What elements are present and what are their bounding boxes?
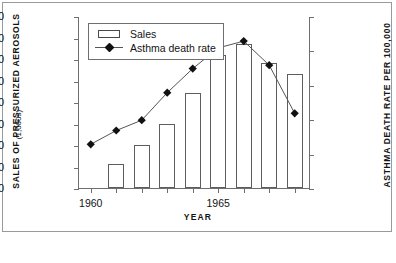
y-axis-left-tick xyxy=(74,103,79,104)
x-axis-tick xyxy=(295,188,296,193)
x-axis-tick xyxy=(167,188,168,193)
legend-item-asthma-death-rate: Asthma death rate xyxy=(94,41,216,55)
y-axis-right-tick xyxy=(309,155,314,156)
y-axis-left-tick-label: 0 xyxy=(0,183,4,194)
data-point-marker xyxy=(112,126,120,134)
y-axis-right-tick xyxy=(309,189,314,190)
y-axis-left-tick xyxy=(74,60,79,61)
y-axis-left-tick xyxy=(74,168,79,169)
x-axis-tick xyxy=(193,188,194,193)
y-axis-right-tick xyxy=(309,86,314,87)
y-axis-left-tick-label: 300 xyxy=(0,119,4,130)
x-axis-tick xyxy=(142,188,143,193)
y-axis-left-tick-label: 500 xyxy=(0,76,4,87)
data-point-marker xyxy=(291,109,299,117)
y-axis-left-tick-label: 100 xyxy=(0,162,4,173)
legend-label-sales: Sales xyxy=(124,28,156,40)
y-axis-left-tick xyxy=(74,82,79,83)
plot-area: 8007006005004003002001000 2.521.510.50 1… xyxy=(78,17,310,189)
y-axis-left-tick-label: 600 xyxy=(0,54,4,65)
y-axis-left-subtitle: (1,000s) xyxy=(14,40,23,210)
y-axis-left-tick xyxy=(74,17,79,18)
y-axis-right-tick xyxy=(309,51,314,52)
x-axis-title: YEAR xyxy=(0,212,396,222)
x-axis-tick xyxy=(91,188,92,193)
y-axis-left-tick-label: 400 xyxy=(0,97,4,108)
data-point-marker xyxy=(87,140,95,148)
x-axis-tick-label: 1960 xyxy=(69,197,113,209)
bar-swatch-icon xyxy=(94,30,124,38)
y-axis-right-line xyxy=(309,17,310,189)
y-axis-left-tick-label: 700 xyxy=(0,33,4,44)
x-axis-tick xyxy=(116,188,117,193)
legend-item-sales: Sales xyxy=(94,27,216,41)
x-axis-line xyxy=(78,188,310,189)
line-diamond-marker-icon xyxy=(94,44,124,52)
figure: SALES OF PRESSURIZED AEROSOLS (1,000s) A… xyxy=(0,0,396,263)
x-axis-tick xyxy=(244,188,245,193)
y-axis-left-tick-label: 800 xyxy=(0,11,4,22)
y-axis-left-tick xyxy=(74,39,79,40)
y-axis-left-tick xyxy=(74,146,79,147)
y-axis-left-tick-label: 200 xyxy=(0,140,4,151)
x-axis-tick xyxy=(269,188,270,193)
legend-label-asthma-death-rate: Asthma death rate xyxy=(124,42,216,54)
x-axis-tick-label: 1965 xyxy=(196,197,240,209)
y-axis-left-tick xyxy=(74,125,79,126)
x-axis-tick xyxy=(218,188,219,193)
y-axis-right-title: ASTHMA DEATH RATE PER 100,000 xyxy=(382,5,392,205)
legend: Sales Asthma death rate xyxy=(88,23,224,60)
y-axis-left-tick xyxy=(74,189,79,190)
y-axis-right-tick xyxy=(309,120,314,121)
y-axis-right-tick xyxy=(309,17,314,18)
